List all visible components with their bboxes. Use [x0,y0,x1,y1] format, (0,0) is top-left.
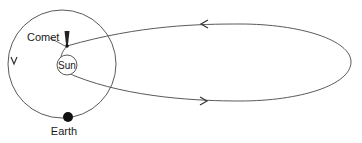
comet-nucleus [65,44,69,48]
comet-orbit-arrow-left-icon [201,20,208,28]
comet-label: Comet [27,31,59,43]
earth-orbit-arrow-icon [11,57,17,64]
earth-label: Earth [51,125,77,137]
sun-label: Sun [58,60,76,71]
comet-orbit [61,24,351,101]
earth [63,112,73,122]
sun: Sun [57,55,77,75]
comet-orbit-diagram: Sun Comet Earth [0,0,362,143]
comet-tail [65,31,70,46]
comet-orbit-arrow-right-icon [200,97,207,105]
